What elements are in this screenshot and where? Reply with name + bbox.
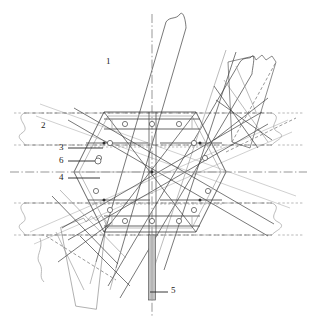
bolt-hole: [191, 140, 196, 145]
bolt-hole: [176, 218, 181, 223]
bolt-hole: [205, 188, 210, 193]
callout-3: 3: [59, 143, 64, 152]
bolt-hole: [149, 121, 154, 126]
bolt-hole-leader-target: [95, 158, 101, 164]
callout-6: 6: [59, 156, 64, 165]
bolt-hole: [122, 121, 127, 126]
bolt-hole: [122, 218, 127, 223]
drawing-canvas: .ln { fill:none; stroke:#3f3f3f; stroke-…: [0, 0, 317, 327]
callout-4: 4: [59, 173, 64, 182]
bolt-hole: [93, 188, 98, 193]
bolt-hole: [191, 207, 196, 212]
bolt-hole: [107, 207, 112, 212]
lower-beam: [14, 203, 303, 235]
callout-5: 5: [171, 286, 176, 295]
bolt-hole: [149, 218, 154, 223]
technical-drawing-svg: .ln { fill:none; stroke:#3f3f3f; stroke-…: [0, 0, 317, 327]
callout-1: 1: [106, 57, 111, 66]
hexagonal-gusset-plate: [74, 112, 226, 232]
bolt-hole: [202, 155, 207, 160]
diagonal-brace-members: [52, 13, 274, 298]
bolt-hole: [107, 140, 112, 145]
center-lines: [10, 14, 307, 318]
bolt-hole: [176, 121, 181, 126]
callout-2: 2: [41, 121, 46, 130]
